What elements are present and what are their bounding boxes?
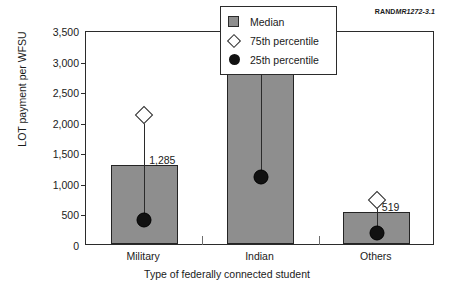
y-tick-label: 500 bbox=[38, 210, 79, 221]
y-tick-mark bbox=[81, 93, 86, 94]
y-tick-label: 1,500 bbox=[38, 149, 79, 160]
x-axis-title: Type of federally connected student bbox=[0, 268, 454, 280]
y-tick-mark bbox=[81, 185, 86, 186]
legend-item-25th-percentile: 25th percentile bbox=[228, 51, 329, 68]
y-tick-mark bbox=[81, 154, 86, 155]
y-tick-label: 3,000 bbox=[38, 58, 79, 69]
marker-75th-military bbox=[135, 106, 153, 124]
y-tick-label: 3,500 bbox=[38, 27, 79, 38]
source-code: MR1272-3.1 bbox=[395, 8, 435, 15]
chart-figure: RANDMR1272-3.1 LOT payment per WFSU Type… bbox=[0, 0, 454, 285]
value-label-others: 519 bbox=[382, 201, 400, 213]
value-label-military: 1,285 bbox=[149, 154, 175, 166]
legend-item-75th-percentile: 75th percentile bbox=[228, 32, 329, 49]
square-icon bbox=[228, 16, 250, 27]
x-tick-label-indian: Indian bbox=[201, 250, 317, 262]
chart-legend: Median 75th percentile 25th percentile bbox=[220, 6, 337, 75]
source-org: RAND bbox=[375, 8, 396, 15]
x-tick-label-military: Military bbox=[85, 250, 201, 262]
marker-25th-indian bbox=[253, 169, 268, 184]
circle-icon bbox=[228, 54, 250, 65]
y-tick-mark bbox=[81, 63, 86, 64]
diamond-icon bbox=[228, 36, 250, 46]
y-axis-title: LOT payment per WFSU bbox=[16, 9, 28, 169]
legend-label: 75th percentile bbox=[250, 35, 319, 47]
whisker-indian bbox=[261, 60, 262, 171]
legend-label: 25th percentile bbox=[250, 54, 319, 66]
x-tick-mark bbox=[319, 236, 320, 245]
marker-25th-military bbox=[137, 213, 152, 228]
x-tick-mark bbox=[202, 236, 203, 245]
y-tick-label: 0 bbox=[38, 241, 79, 252]
y-tick-mark bbox=[81, 215, 86, 216]
x-tick-label-others: Others bbox=[318, 250, 434, 262]
legend-item-median: Median bbox=[228, 13, 329, 30]
marker-25th-others bbox=[369, 226, 384, 241]
y-tick-mark bbox=[81, 124, 86, 125]
legend-label: Median bbox=[250, 16, 284, 28]
y-tick-label: 1,000 bbox=[38, 180, 79, 191]
y-tick-label: 2,500 bbox=[38, 88, 79, 99]
whisker-military bbox=[144, 111, 145, 215]
y-tick-label: 2,000 bbox=[38, 119, 79, 130]
source-credit: RANDMR1272-3.1 bbox=[375, 8, 435, 15]
